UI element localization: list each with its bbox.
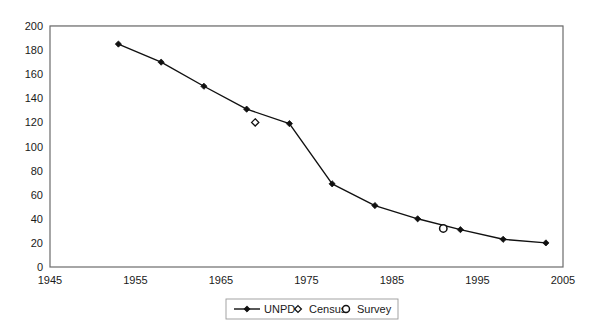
x-axis-tick-label: 1985: [380, 274, 404, 286]
x-axis-tick-label: 1965: [209, 274, 233, 286]
chart-container: 020406080100120140160180200 194519551965…: [0, 0, 595, 329]
y-axis-tick-label: 160: [25, 68, 43, 80]
line-chart: 020406080100120140160180200 194519551965…: [0, 0, 595, 329]
legend-label-survey: Survey: [357, 303, 392, 315]
y-axis-tick-label: 60: [31, 189, 43, 201]
data-point-survey: [440, 225, 447, 232]
y-axis-tick-label: 80: [31, 165, 43, 177]
y-axis-tick-label: 40: [31, 213, 43, 225]
x-axis-tick-label: 1975: [294, 274, 318, 286]
legend-marker-survey-circle: [343, 306, 350, 313]
y-axis-tick-label: 20: [31, 237, 43, 249]
y-axis-tick-label: 120: [25, 116, 43, 128]
legend-label-census: Census: [309, 303, 347, 315]
series-survey: [440, 225, 447, 232]
y-axis-tick-label: 200: [25, 20, 43, 32]
y-axis-tick-label: 0: [37, 261, 43, 273]
x-axis-tick-label: 1945: [38, 274, 62, 286]
x-axis-tick-label: 2005: [551, 274, 575, 286]
y-axis-tick-label: 100: [25, 141, 43, 153]
x-axis-tick-label: 1955: [123, 274, 147, 286]
x-axis-tick-label: 1995: [465, 274, 489, 286]
y-axis-tick-label: 180: [25, 44, 43, 56]
plot-area-frame: [50, 26, 563, 267]
y-axis-tick-label: 140: [25, 92, 43, 104]
legend-label-unpd: UNPD: [264, 303, 295, 315]
chart-legend: UNPDCensusSurvey: [226, 299, 398, 319]
